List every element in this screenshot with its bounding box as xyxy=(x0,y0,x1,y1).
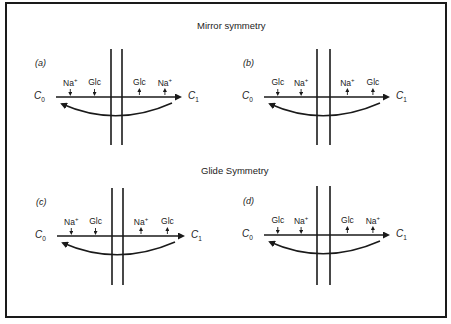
return-arrow-c1-c0 xyxy=(270,241,380,254)
state-label-c0: C0 xyxy=(242,228,253,241)
state-label-c1: C1 xyxy=(396,228,407,241)
state-subscript: 0 xyxy=(249,234,253,241)
panel-d: GlcNa+GlcNa+(d)C0C1 xyxy=(0,0,451,324)
panel-label: (d) xyxy=(243,196,254,206)
diagram-lines xyxy=(0,0,451,324)
state-subscript: 1 xyxy=(403,234,407,241)
